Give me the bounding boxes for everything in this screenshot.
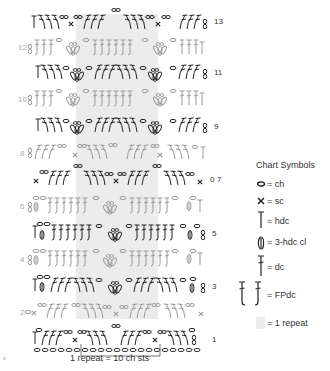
single-crochet-icon	[256, 195, 266, 207]
double-crochet-icon	[256, 255, 266, 277]
repeat-caption: 1 repeat = 10 ch sts	[70, 353, 149, 363]
row-label-3: 3	[212, 283, 216, 291]
legend-item-cluster: = 3-hdc cl	[256, 236, 330, 250]
row-label-5: 5	[212, 230, 216, 238]
row-label-8: 8	[20, 150, 24, 158]
row-7-marker: 0	[210, 176, 214, 184]
legend-item-ch: = ch	[256, 178, 330, 192]
legend-item-sc: = sc	[256, 195, 330, 209]
repeat-swatch	[256, 317, 265, 329]
cluster-icon	[256, 236, 266, 250]
legend-item-fpdc: = FPdc	[256, 285, 330, 299]
row-label-7: 7	[217, 176, 221, 184]
legend-item-dc: = dc	[256, 258, 330, 272]
row-label-2: 2	[20, 309, 24, 317]
row-label-13: 13	[214, 18, 223, 26]
row-label-12: 12	[18, 44, 27, 52]
foundation-chain	[34, 348, 200, 351]
front-post-dc-icon	[236, 281, 264, 307]
chain-icon	[256, 178, 266, 190]
corner-mark: ‹	[3, 354, 6, 363]
row-label-1: 1	[212, 336, 216, 344]
legend-item-hdc: = hdc	[256, 213, 330, 227]
repeat-band	[76, 14, 158, 319]
row-12-stitches	[28, 38, 204, 55]
half-double-crochet-icon	[256, 211, 266, 229]
legend-item-repeat: = 1 repeat	[256, 317, 330, 331]
row-label-6: 6	[20, 203, 24, 211]
row-label-9: 9	[214, 123, 218, 131]
row-1-stitches	[33, 325, 196, 346]
legend-title: Chart Symbols	[256, 160, 315, 170]
row-label-11: 11	[214, 69, 222, 77]
row-label-4: 4	[20, 256, 24, 264]
row-10-stitches	[28, 89, 204, 106]
row-label-10: 10	[18, 96, 27, 104]
